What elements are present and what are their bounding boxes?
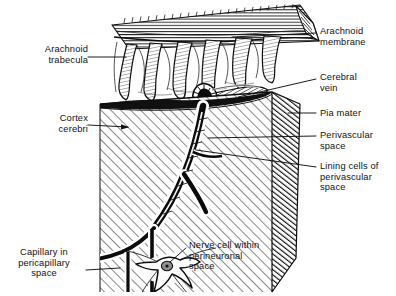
label-capillary-in-pericapillary-space: Capillary in pericapillary space: [2, 247, 86, 279]
label-nerve-cell-within-perineuronal-space: Nerve cell within perineuronal space: [189, 240, 297, 272]
label-cortex-cerebri: Cortex cerebri: [8, 113, 88, 134]
label-cerebral-vein: Cerebral vein: [320, 72, 396, 93]
label-perivascular-space: Perivascular space: [320, 130, 396, 151]
label-pia-mater: Pia mater: [320, 108, 396, 119]
label-lining-cells-of-perivascular-space: Lining cells of perivascular space: [320, 161, 396, 193]
label-arachnoid-trabecula: Arachnoid trabecula: [8, 44, 88, 65]
label-arachnoid-membrane: Arachnoid membrane: [320, 26, 396, 47]
